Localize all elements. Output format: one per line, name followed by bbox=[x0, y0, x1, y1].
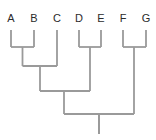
taxon-label-d: D bbox=[75, 12, 83, 24]
taxon-labels-group: ABCDEFG bbox=[7, 12, 150, 24]
tip-branches-group bbox=[11, 30, 146, 66]
taxon-label-g: G bbox=[142, 12, 151, 24]
taxon-label-c: C bbox=[53, 12, 61, 24]
cladogram-svg: ABCDEFG bbox=[0, 0, 156, 140]
internal-node-branches-group bbox=[11, 47, 146, 134]
cladogram-figure: ABCDEFG bbox=[0, 0, 156, 140]
taxon-label-f: F bbox=[120, 12, 127, 24]
taxon-label-e: E bbox=[97, 12, 104, 24]
taxon-label-b: B bbox=[30, 12, 37, 24]
taxon-label-a: A bbox=[7, 12, 15, 24]
